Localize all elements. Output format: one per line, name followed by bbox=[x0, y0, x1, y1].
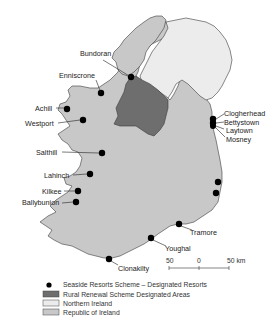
scale-bar: 50 0 50 km bbox=[166, 257, 246, 270]
ireland-map: Bundoran Enniscrone Achill Westport Salt… bbox=[0, 0, 276, 335]
label-lahinch: Lahinch bbox=[44, 171, 69, 180]
label-salthill: Salthill bbox=[36, 148, 58, 157]
resort-dot-lahinch[interactable] bbox=[87, 171, 93, 177]
resort-dot-laytown[interactable] bbox=[210, 123, 216, 129]
resort-dot-westport[interactable] bbox=[80, 117, 86, 123]
legend-swatch-rural-renewal bbox=[43, 291, 59, 297]
label-youghal: Youghal bbox=[165, 244, 191, 253]
label-westport: Westport bbox=[25, 119, 54, 128]
legend-dot-icon bbox=[46, 282, 51, 287]
resort-dot-kilkee[interactable] bbox=[75, 188, 81, 194]
legend-swatch-northern-ireland bbox=[43, 300, 59, 306]
legend: Seaside Resorts Scheme – Designated Reso… bbox=[43, 281, 208, 317]
label-laytown: Laytown bbox=[226, 126, 253, 135]
scale-label-right: 50 km bbox=[227, 257, 246, 264]
scale-label-center: 0 bbox=[197, 257, 201, 264]
scale-label-left: 50 bbox=[166, 257, 174, 264]
label-enniscrone: Enniscrone bbox=[59, 71, 95, 80]
label-kilkee: Kilkee bbox=[42, 187, 62, 196]
legend-label-resorts: Seaside Resorts Scheme – Designated Reso… bbox=[63, 281, 208, 289]
label-clonakilty: Clonakilty bbox=[118, 264, 150, 273]
resort-dot-salthill[interactable] bbox=[99, 150, 105, 156]
legend-label-rural-renewal: Rural Renewal Scheme Designated Areas bbox=[63, 291, 191, 299]
label-tramore: Tramore bbox=[190, 228, 217, 237]
label-clogherhead: Clogherhead bbox=[224, 109, 265, 118]
legend-label-northern-ireland: Northern Ireland bbox=[63, 300, 112, 307]
resort-dot-achill[interactable] bbox=[64, 106, 70, 112]
resort-dot-ballybunion[interactable] bbox=[73, 199, 79, 205]
label-bundoran: Bundoran bbox=[80, 49, 111, 58]
legend-swatch-republic bbox=[43, 309, 59, 315]
legend-label-republic: Republic of Ireland bbox=[63, 309, 120, 317]
label-mosney: Mosney bbox=[226, 135, 252, 144]
label-achill: Achill bbox=[35, 104, 53, 113]
label-ballybunion: Ballybunion bbox=[22, 198, 59, 207]
resort-dot-wicklow-1[interactable] bbox=[215, 179, 221, 185]
resort-dot-wicklow-2[interactable] bbox=[213, 190, 219, 196]
